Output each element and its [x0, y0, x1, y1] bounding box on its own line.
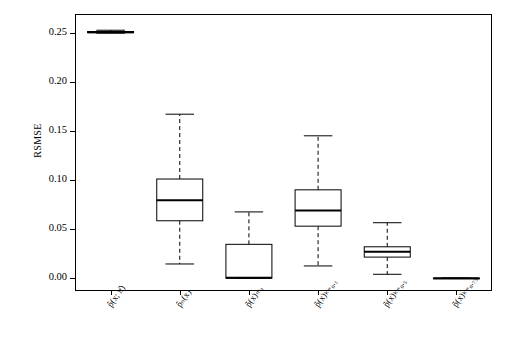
y-tick-label: 0.10 — [33, 173, 67, 184]
y-tick-label: 0.00 — [33, 271, 67, 282]
y-tick-label: 0.20 — [33, 75, 67, 86]
boxplot-canvas — [76, 15, 491, 290]
y-tick-label: 0.05 — [33, 222, 67, 233]
chart-root: RSMSE 0.000.050.100.150.200.25 p̂(x; π̂)… — [0, 0, 510, 354]
y-tick-mark — [70, 33, 75, 34]
boxplot-box — [157, 114, 203, 264]
boxplot-box — [88, 30, 134, 33]
boxplot-box — [295, 136, 341, 266]
y-tick-mark — [70, 278, 75, 279]
y-tick-label: 0.15 — [33, 124, 67, 135]
boxplot-box — [226, 212, 272, 278]
y-tick-mark — [70, 180, 75, 181]
y-tick-mark — [70, 229, 75, 230]
y-tick-label: 0.25 — [33, 26, 67, 37]
y-tick-mark — [70, 82, 75, 83]
y-tick-mark — [70, 131, 75, 132]
boxplot-box — [364, 223, 410, 275]
y-axis-label: RSMSE — [32, 101, 43, 181]
plot-frame — [75, 14, 492, 291]
